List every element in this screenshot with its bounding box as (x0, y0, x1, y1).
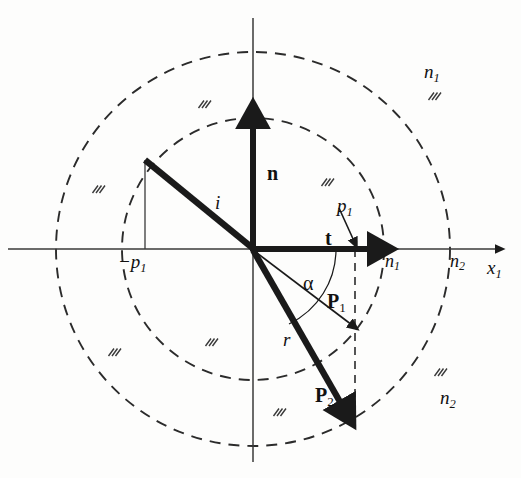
hatch-mark (429, 93, 442, 101)
label-n2-region: n2 (440, 388, 456, 410)
label-x1-axis: x1 (487, 258, 502, 280)
hatch-mark (435, 369, 448, 377)
incident-ray (145, 160, 255, 250)
label-P2-vector: P2 (315, 385, 334, 408)
label-incident-ray: i (215, 193, 220, 212)
label-tangent-vector: t (325, 228, 332, 248)
label-minus-p1: −p1 (118, 252, 147, 274)
hatch-mark (93, 186, 106, 194)
label-p1-marker: p1 (337, 196, 353, 218)
label-refracted-ray: r (283, 330, 290, 349)
label-normal-vector: n (267, 163, 278, 183)
figure-canvas: n t i r α P1 P2 p1 −p1 n1 n2 x1 n1 n2 (0, 0, 521, 478)
refracted-ray (253, 250, 343, 407)
hatch-mark (274, 409, 287, 417)
label-n1-axis-intercept: n1 (385, 252, 400, 273)
hatch-mark (206, 339, 219, 347)
label-alpha-angle: α (303, 273, 313, 293)
hatch-mark (109, 349, 122, 357)
label-P1-vector: P1 (327, 291, 346, 314)
label-n1-region: n1 (424, 62, 440, 84)
hatch-mark (199, 101, 212, 109)
hatch-mark (322, 179, 335, 187)
label-n2-axis-intercept: n2 (450, 252, 465, 273)
